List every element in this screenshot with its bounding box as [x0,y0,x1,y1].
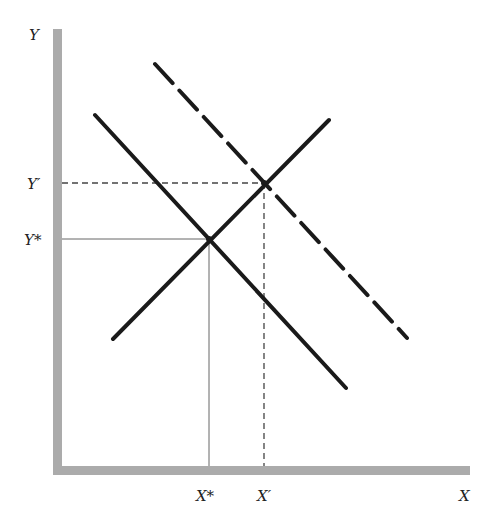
x-star-label: X* [195,487,215,505]
y-axis-label: Y [29,26,41,44]
original-equilibrium-point [206,236,212,242]
new-equilibrium-point [261,180,267,186]
shifted-downward-line [155,64,407,338]
diagram-canvas: Y X Y′ Y* X* X′ [0,0,494,517]
y-star-label: Y* [24,231,42,249]
y-prime-label: Y′ [27,175,41,193]
x-axis [53,466,470,475]
x-prime-label: X′ [256,487,272,505]
original-downward-line [95,115,346,388]
x-axis-label: X [458,487,471,505]
y-axis [53,29,62,475]
upward-line [113,120,329,339]
